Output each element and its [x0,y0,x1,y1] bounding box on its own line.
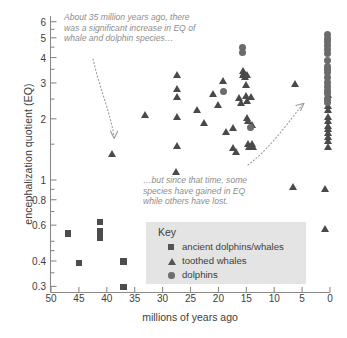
circle-icon [168,272,175,279]
x-tick-labels: 50454035302520151050 [0,293,347,309]
data-point-triangle [291,80,299,87]
data-point-triangle [289,183,297,190]
data-point-square [76,260,82,266]
data-point-square [120,258,126,264]
x-tick-label: 45 [64,293,94,304]
x-tick-label: 30 [148,293,178,304]
data-point-triangle [108,150,116,157]
data-point-triangle [321,225,329,232]
data-point-triangle [321,185,329,192]
chart-legend: Key ancient dolphins/whales toothed whal… [146,222,306,284]
data-point-triangle [219,77,227,84]
data-point-circle [239,49,246,56]
legend-title: Key [158,226,176,238]
x-tick-label: 5 [287,293,317,304]
data-points-layer [0,0,347,338]
data-point-square [65,230,71,236]
legend-label-dolphins: dolphins [182,269,218,280]
data-point-triangle [324,143,332,150]
data-point-triangle [249,143,257,150]
data-point-triangle [209,90,217,97]
x-tick-label: 0 [315,293,345,304]
data-point-triangle [173,113,181,120]
data-point-circle [247,124,254,131]
data-point-triangle [200,119,208,126]
data-point-square [97,235,103,241]
data-point-square [120,284,126,290]
x-tick-label: 20 [203,293,233,304]
data-point-triangle [173,71,181,78]
legend-label-toothed: toothed whales [182,255,247,266]
annotation-gained-lost-text: …but since that time, some species have … [143,175,265,207]
data-point-triangle [173,93,181,100]
x-tick-label: 50 [36,293,66,304]
data-point-triangle [173,85,181,92]
y-axis-title: encephalization quotient (EQ) [22,34,34,274]
data-point-triangle [247,93,255,100]
data-point-triangle [141,111,149,118]
data-point-triangle [172,168,180,175]
data-point-circle [220,88,227,95]
data-point-triangle [242,81,250,88]
x-tick-label: 35 [120,293,150,304]
data-point-triangle [173,142,181,149]
x-axis-title: millions of years ago [60,311,320,323]
triangle-icon [168,258,176,265]
square-icon [168,244,174,250]
data-point-triangle [243,71,251,78]
data-point-square [97,219,103,225]
y-tick-label: 6 [18,16,46,27]
data-point-triangle [232,148,240,155]
data-point-triangle [229,124,237,131]
data-point-triangle [193,106,201,113]
x-tick-label: 15 [231,293,261,304]
x-tick-label: 10 [259,293,289,304]
legend-label-ancient: ancient dolphins/whales [182,241,284,252]
y-tick-label: 0.3 [18,281,46,292]
eq-vs-time-scatter-chart: 6543210.80.60.40.3 50454035302520151050 … [0,0,347,338]
annotation-increase-text: About 35 million years ago, there was a … [64,12,204,44]
data-point-triangle [214,101,222,108]
x-tick-label: 25 [176,293,206,304]
x-tick-label: 40 [92,293,122,304]
